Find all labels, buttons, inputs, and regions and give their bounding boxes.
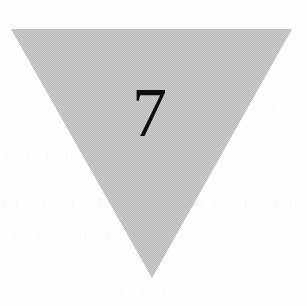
- triangle-halftone-fill: [0, 0, 307, 306]
- inverted-triangle-shape: [0, 0, 307, 306]
- triangle-numeral-label: 7: [0, 78, 307, 148]
- scanned-page: | | | | | || | | || | | | | | | || | || …: [0, 0, 307, 306]
- figure: 7: [0, 0, 307, 306]
